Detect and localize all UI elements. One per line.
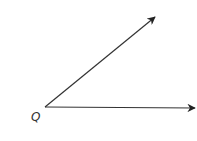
vertex-label: Q	[31, 110, 40, 124]
angle-diagram: Q	[0, 0, 197, 141]
upper-ray	[45, 17, 155, 107]
angle-figure	[0, 0, 197, 141]
horizontal-ray	[45, 107, 195, 108]
